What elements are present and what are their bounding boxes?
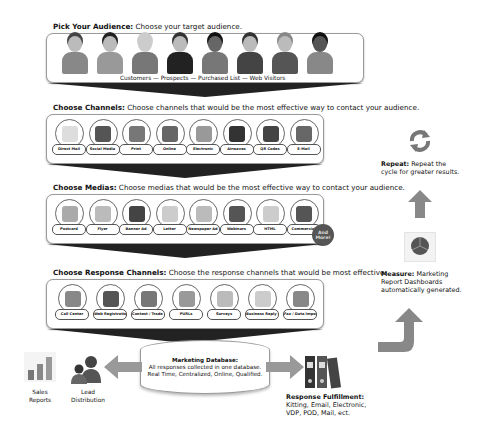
star-icon xyxy=(141,291,157,307)
print-icon xyxy=(129,126,145,142)
newspaper-icon xyxy=(196,206,212,222)
qr-code-icon xyxy=(263,126,279,142)
people-icon xyxy=(70,355,104,385)
person-body xyxy=(202,52,228,74)
fulfillment-line2: VDP, POD, Mail, ect. xyxy=(286,409,366,417)
survey-icon xyxy=(217,291,233,307)
person-body xyxy=(307,52,333,74)
medias-item-postcard[interactable]: Postcard xyxy=(52,199,86,239)
bubble-label: E-Mail xyxy=(287,144,321,155)
response-description: Choose the response channels that would … xyxy=(169,268,387,277)
audience-description: Choose your target audience. xyxy=(136,22,243,31)
online-icon xyxy=(162,126,178,142)
sales-reports-line2: Reports xyxy=(20,397,60,405)
medias-item-letter[interactable]: Letter xyxy=(153,199,187,239)
audience-title: Pick Your Audience: Choose your target a… xyxy=(53,22,242,31)
medias-item-webinars[interactable]: Webinars xyxy=(220,199,254,239)
medias-item-html[interactable]: HTML xyxy=(253,199,287,239)
response-item-web-registration[interactable]: Web Registration xyxy=(93,284,127,324)
and-more-badge: And More! xyxy=(312,224,334,246)
repeat-line2: cycle for greater results. xyxy=(381,168,459,176)
medias-item-newspaper-ad[interactable]: Newspaper Ad xyxy=(186,199,220,239)
response-title: Choose Response Channels: Choose the res… xyxy=(53,268,387,277)
bar-chart-icon xyxy=(24,352,56,382)
bubble-label: Direct Mail xyxy=(52,144,86,155)
bubble-label: QR Codes xyxy=(253,144,287,155)
bubble-label: PURLs xyxy=(169,309,203,320)
database-title: Marketing Database: xyxy=(140,357,270,364)
medias-item-flyer[interactable]: Flyer xyxy=(86,199,120,239)
envelope-icon xyxy=(62,126,78,142)
bubble-label: Call Center xyxy=(55,309,89,320)
audience-caption: Customers — Prospects — Purchased List —… xyxy=(120,75,285,81)
up-arrow-icon xyxy=(408,190,432,218)
bubble-label: Flyer xyxy=(86,224,120,235)
right-arrow-icon xyxy=(266,355,304,379)
response-item-call-center[interactable]: Call Center xyxy=(55,284,89,324)
channels-list: Direct MailSocial MediaPrintOnlineElectr… xyxy=(52,119,322,159)
lead-distribution-line1: Lead xyxy=(66,389,110,397)
social-icon xyxy=(95,126,111,142)
audience-heading: Pick Your Audience: xyxy=(53,22,133,31)
bubble-label: Newspaper Ad xyxy=(186,224,220,235)
channels-item-qr-codes[interactable]: QR Codes xyxy=(253,119,287,159)
response-item-contest-trade-show[interactable]: Contest / Trade Show xyxy=(131,284,165,324)
medias-title: Choose Medias: Choose medias that would … xyxy=(53,183,405,192)
response-item-surveys[interactable]: Surveys xyxy=(207,284,241,324)
person-body xyxy=(62,52,88,74)
medias-list: PostcardFlyerBanner AdLetterNewspaper Ad… xyxy=(52,199,322,239)
channels-item-social-media[interactable]: Social Media xyxy=(86,119,120,159)
sales-reports-label: Sales Reports xyxy=(20,389,60,404)
response-heading: Choose Response Channels: xyxy=(53,268,166,277)
fulfillment-title: Response Fulfillment: xyxy=(286,393,366,401)
bubble-label: Contest / Trade Show xyxy=(131,309,165,320)
channels-item-e-mail[interactable]: E-Mail xyxy=(287,119,321,159)
person-head xyxy=(313,36,327,52)
sales-reports-line1: Sales xyxy=(20,389,60,397)
bubble-label: Print xyxy=(119,144,153,155)
person-head xyxy=(173,36,187,52)
refresh-cycle-icon xyxy=(408,129,432,153)
postcard-icon xyxy=(62,206,78,222)
response-item-business-reply-card[interactable]: Business Reply Card xyxy=(245,284,279,324)
measure-line2: Report Dashboards xyxy=(381,278,462,286)
channels-title: Choose Channels: Choose channels that wo… xyxy=(53,103,419,112)
database-text: Marketing Database: All responses collec… xyxy=(140,357,270,378)
purl-icon xyxy=(179,291,195,307)
person-head xyxy=(103,36,117,52)
repeat-line1: Repeat the xyxy=(411,160,446,168)
medias-funnel-arrow xyxy=(47,244,323,258)
bubble-label: Banner Ad xyxy=(119,224,153,235)
channels-item-airwaves[interactable]: Airwaves xyxy=(220,119,254,159)
binders-icon xyxy=(303,354,343,390)
channels-item-electronic[interactable]: Electronic xyxy=(186,119,220,159)
audience-people xyxy=(60,34,360,80)
channels-item-online[interactable]: Online xyxy=(153,119,187,159)
channels-item-print[interactable]: Print xyxy=(119,119,153,159)
flyer-icon xyxy=(95,206,111,222)
bubble-label: Electronic xyxy=(186,144,220,155)
channels-funnel-arrow xyxy=(47,164,323,178)
bubble-label: HTML xyxy=(253,224,287,235)
letter-icon xyxy=(162,206,178,222)
channels-item-direct-mail[interactable]: Direct Mail xyxy=(52,119,86,159)
speech-icon xyxy=(296,206,312,222)
measure-line1: Marketing xyxy=(416,270,448,278)
response-item-fax-data-import[interactable]: Fax / Data Import xyxy=(283,284,317,324)
phone-icon xyxy=(65,291,81,307)
lead-distribution-line2: Distribution xyxy=(66,397,110,405)
medias-item-banner-ad[interactable]: Banner Ad xyxy=(119,199,153,239)
person-head xyxy=(243,36,257,52)
web-icon xyxy=(103,291,119,307)
repeat-heading: Repeat: xyxy=(381,160,409,168)
measure-text: Measure: Marketing Report Dashboards aut… xyxy=(381,270,462,294)
measure-line3: automatically generated. xyxy=(381,286,462,294)
response-item-purls[interactable]: PURLs xyxy=(169,284,203,324)
audience-person-7 xyxy=(305,34,335,82)
email-icon xyxy=(296,126,312,142)
audience-funnel-arrow xyxy=(47,83,363,97)
database-line1: All responses collected in one database. xyxy=(140,364,270,371)
bubble-label: Postcard xyxy=(52,224,86,235)
measure-heading: Measure: xyxy=(381,270,414,278)
response-list: Call CenterWeb RegistrationContest / Tra… xyxy=(55,284,325,324)
